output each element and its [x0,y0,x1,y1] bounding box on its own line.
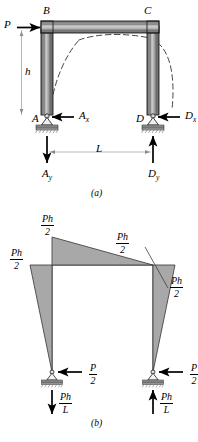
label-moment-left-column: Ph 2 [10,248,23,271]
label-reaction-right-vertical: Ph L [160,392,173,415]
label-joint-A: A [32,113,39,124]
reaction-right-vertical-denominator: L [160,405,173,416]
caption-a: (a) [91,189,102,199]
moment-top-right-numerator: Ph [116,232,129,243]
moment-right-column-denominator: 2 [170,289,183,300]
label-dimension-L: L [96,143,102,154]
reaction-right-horizontal-numerator: P [190,363,198,374]
reaction-left-horizontal-numerator: P [89,363,97,374]
reaction-Ay-symbol: A [42,167,49,179]
reaction-right-vertical-numerator: Ph [160,392,173,403]
moment-left-column-denominator: 2 [10,261,23,272]
label-applied-load-P: P [4,19,11,30]
reaction-Ax-subscript: x [86,115,89,124]
label-reaction-Dy: Dy [148,168,159,182]
label-reaction-Ax: Ax [79,110,89,124]
label-reaction-Ay: Ay [42,168,52,182]
reaction-Dx-symbol: D [185,109,193,121]
moment-left-column-numerator: Ph [10,248,23,259]
member-top-beam-BC [41,21,159,33]
reaction-left-vertical-numerator: Ph [59,392,72,403]
label-reaction-right-horizontal: P 2 [190,363,198,386]
moment-top-right-denominator: 2 [116,245,129,256]
caption-b: (b) [91,419,102,429]
label-joint-C: C [144,5,151,16]
label-moment-right-column: Ph 2 [170,276,183,299]
dimension-h [20,30,24,115]
reaction-right-horizontal-denominator: 2 [190,376,198,387]
diagram-b-moment [30,237,183,414]
moment-top-left-numerator: Ph [41,214,54,225]
reaction-left-vertical-denominator: L [59,405,72,416]
moment-area-left-column [30,265,52,372]
label-moment-top-left: Ph 2 [41,214,54,237]
label-joint-D: D [136,113,144,124]
reaction-Dx-subscript: x [193,115,196,124]
member-right-column-DC [147,26,159,115]
label-joint-B: B [43,5,50,16]
moment-area-beam [52,237,153,293]
moment-right-column-numerator: Ph [170,276,183,287]
member-left-column-AB [41,26,53,115]
figure-root: P B C A D h L Ax Dx Ay Dy (a) Ph 2 Ph 2 … [0,0,198,442]
moment-top-left-denominator: 2 [41,227,54,238]
label-moment-top-right: Ph 2 [116,232,129,255]
label-reaction-left-vertical: Ph L [59,392,72,415]
label-reaction-left-horizontal: P 2 [89,363,97,386]
label-dimension-h: h [25,66,31,77]
reaction-Ax-symbol: A [79,109,86,121]
label-reaction-Dx: Dx [185,110,196,124]
reaction-left-horizontal-denominator: 2 [89,376,97,387]
reaction-Dy-subscript: y [156,173,159,182]
reaction-Dy-symbol: D [148,167,156,179]
reaction-Ay-subscript: y [49,173,52,182]
